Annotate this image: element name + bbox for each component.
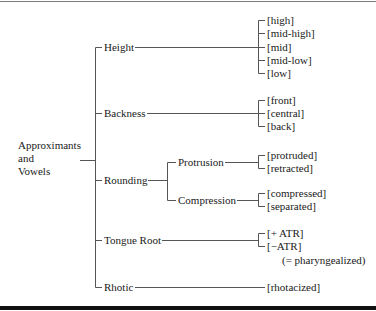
- value-low: [low]: [266, 67, 292, 79]
- value-mid-high: [mid-high]: [266, 27, 316, 39]
- value-retracted: [retracted]: [266, 162, 314, 174]
- root-line-3: Vowels: [18, 165, 81, 178]
- root-line-1: Approximants: [18, 139, 81, 152]
- feature-height: Height: [103, 41, 135, 53]
- value-compressed: [compressed]: [266, 187, 327, 199]
- feature-tongue-root: Tongue Root: [103, 234, 162, 246]
- value-back: [back]: [266, 120, 296, 132]
- value-minus-atr: [−ATR]: [266, 240, 302, 252]
- value-front: [front]: [266, 94, 297, 106]
- value-high: [high]: [266, 14, 295, 26]
- feature-backness: Backness: [103, 107, 147, 119]
- root-line-2: and: [18, 152, 81, 165]
- value-mid: [mid]: [266, 41, 292, 53]
- root-node: Approximants and Vowels: [18, 139, 81, 178]
- bottom-rule: [0, 306, 376, 310]
- note-pharyngealized: (= pharyngealized): [281, 254, 366, 266]
- value-protruded: [protruded]: [266, 149, 318, 161]
- value-separated: [separated]: [266, 200, 317, 212]
- value-central: [central]: [266, 107, 305, 119]
- feature-rounding: Rounding: [103, 174, 148, 186]
- value-mid-low: [mid-low]: [266, 54, 313, 66]
- value-rhotacized: [rhotacized]: [266, 281, 321, 293]
- subfeature-protrusion: Protrusion: [177, 156, 225, 168]
- subfeature-compression: Compression: [177, 194, 237, 206]
- value-plus-atr: [+ ATR]: [266, 227, 304, 239]
- feature-rhotic: Rhotic: [103, 281, 134, 293]
